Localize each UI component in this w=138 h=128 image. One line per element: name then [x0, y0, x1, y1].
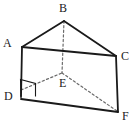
- vertex-label-C: C: [121, 50, 129, 62]
- edge-D-F: [21, 99, 118, 112]
- hidden-edges-group: [21, 21, 117, 111]
- edge-B-E: [62, 21, 64, 73]
- edge-C-F: [116, 56, 118, 112]
- solid-edges-group: [21, 21, 118, 112]
- vertex-label-A: A: [3, 37, 12, 49]
- edge-A-D: [21, 47, 22, 97]
- edge-B-C: [64, 21, 116, 56]
- right-angle-marker-at-D: [21, 80, 36, 97]
- vertex-label-E: E: [59, 77, 66, 89]
- prism-drawing-canvas: [0, 0, 138, 128]
- vertex-label-D: D: [4, 90, 13, 102]
- triangular-prism-figure: A B C D E F: [0, 0, 138, 128]
- edge-A-B: [22, 21, 64, 47]
- vertex-label-F: F: [122, 110, 129, 122]
- vertex-label-B: B: [59, 2, 67, 14]
- edge-A-C: [22, 47, 116, 56]
